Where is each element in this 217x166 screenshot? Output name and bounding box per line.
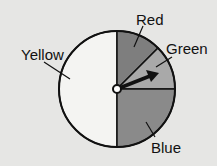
label-blue: Blue — [151, 140, 181, 155]
label-red: Red — [136, 12, 164, 27]
label-green: Green — [166, 41, 208, 56]
label-yellow: Yellow — [21, 47, 64, 62]
spinner-pivot — [113, 85, 121, 93]
spinner-diagram — [0, 0, 217, 166]
section-yellow — [59, 31, 117, 147]
